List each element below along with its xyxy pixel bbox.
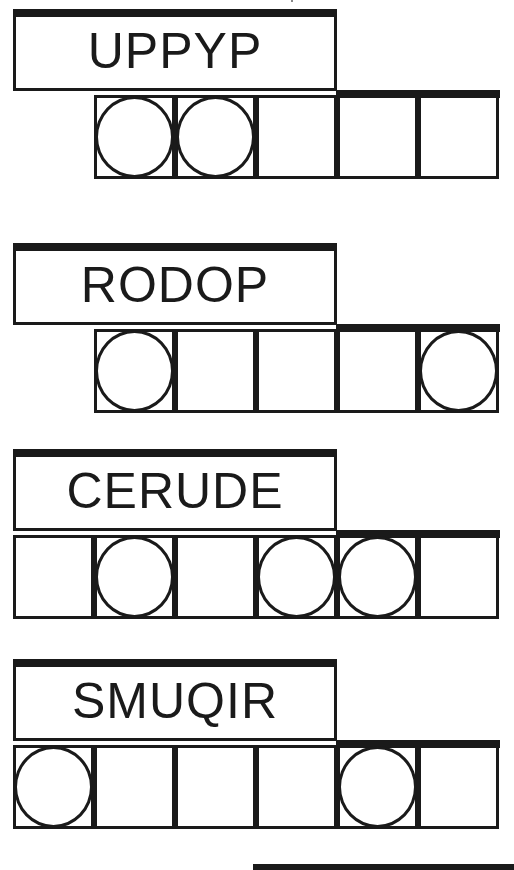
scrambled-word-box: SMUQIR (13, 659, 337, 741)
circled-letter-marker-icon (95, 330, 174, 412)
letter-cell[interactable] (94, 535, 175, 619)
letter-cell[interactable] (256, 535, 337, 619)
letter-cell[interactable] (418, 329, 499, 413)
letter-cell[interactable] (175, 95, 256, 179)
letter-cell[interactable] (175, 535, 256, 619)
letter-cell[interactable] (256, 745, 337, 829)
letter-cell[interactable] (256, 95, 337, 179)
letter-cell[interactable] (13, 745, 94, 829)
stray-mark (291, 0, 293, 2)
letter-cell[interactable] (256, 329, 337, 413)
circled-letter-marker-icon (176, 96, 255, 178)
letter-cell[interactable] (337, 329, 418, 413)
letter-cell[interactable] (175, 745, 256, 829)
scrambled-word-box: CERUDE (13, 449, 337, 531)
scrambled-word-box: RODOP (13, 243, 337, 325)
letter-cell[interactable] (337, 745, 418, 829)
scrambled-word: UPPYP (88, 26, 263, 76)
letter-cell[interactable] (418, 95, 499, 179)
letter-cell[interactable] (94, 745, 175, 829)
next-puzzle-header-bar (253, 864, 514, 870)
circled-letter-marker-icon (95, 536, 174, 618)
letter-cell[interactable] (13, 535, 94, 619)
circled-letter-marker-icon (257, 536, 336, 618)
scrambled-word-box: UPPYP (13, 9, 337, 91)
circled-letter-marker-icon (419, 330, 498, 412)
scrambled-word: CERUDE (66, 466, 283, 516)
circled-letter-marker-icon (95, 96, 174, 178)
letter-cell[interactable] (337, 535, 418, 619)
letter-cell[interactable] (94, 329, 175, 413)
scrambled-word: RODOP (81, 260, 269, 310)
circled-letter-marker-icon (14, 746, 93, 828)
letter-cell[interactable] (175, 329, 256, 413)
letter-cell[interactable] (418, 535, 499, 619)
letter-cell[interactable] (337, 95, 418, 179)
circled-letter-marker-icon (338, 746, 417, 828)
scrambled-word: SMUQIR (72, 676, 278, 726)
circled-letter-marker-icon (338, 536, 417, 618)
letter-cell[interactable] (418, 745, 499, 829)
letter-cell[interactable] (94, 95, 175, 179)
